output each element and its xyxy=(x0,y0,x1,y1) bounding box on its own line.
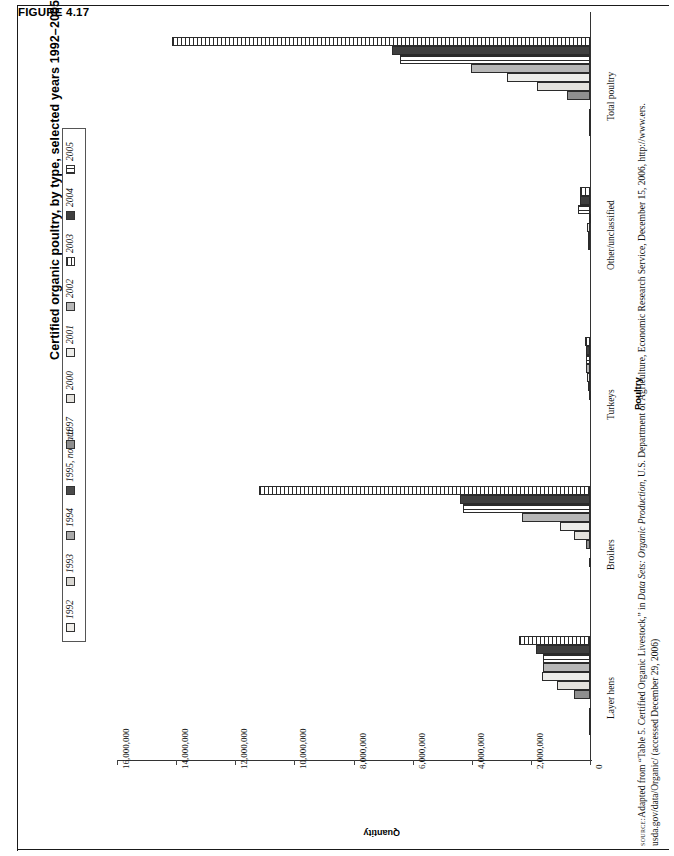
bar xyxy=(586,540,590,549)
bar xyxy=(586,364,590,373)
y-axis-tick-label: 6,000,000 xyxy=(417,733,427,769)
figure-page: FIGURE 4.17 Certified organic poultry, b… xyxy=(0,0,674,856)
source-text-b: , U.S. Department of Agriculture, Econom… xyxy=(637,103,647,482)
y-axis-tick-label: 8,000,000 xyxy=(358,733,368,769)
bar xyxy=(557,681,590,690)
bar xyxy=(589,391,591,400)
bar xyxy=(172,37,590,46)
y-axis-tick-label: 4,000,000 xyxy=(476,733,486,769)
y-axis-tick-label: 16,000,000 xyxy=(121,729,131,770)
bar xyxy=(574,531,590,540)
bar xyxy=(543,654,590,663)
bar xyxy=(522,513,590,522)
source-note-line1: source:Adapted from “Table 5. Certified … xyxy=(637,103,647,846)
y-axis-tick xyxy=(590,760,591,765)
y-axis-tick-label: 14,000,000 xyxy=(180,729,190,770)
bar xyxy=(587,223,590,232)
bar xyxy=(471,64,590,73)
y-axis-tick xyxy=(413,760,414,765)
source-text-italic: Data Sets: Organic Production xyxy=(637,482,647,600)
x-axis-category-label: Turkeys xyxy=(606,389,616,420)
bar xyxy=(519,636,590,645)
source-label: source: xyxy=(637,818,647,846)
bar xyxy=(589,708,591,717)
y-axis-tick-label: 12,000,000 xyxy=(239,729,249,770)
chart-plot-area: 16,000,00014,000,00012,000,00010,000,000… xyxy=(0,0,674,856)
bar xyxy=(589,127,591,136)
bar xyxy=(400,55,590,64)
bar xyxy=(392,46,590,55)
y-axis-tick xyxy=(294,760,295,765)
bar xyxy=(589,558,591,567)
bar xyxy=(589,726,591,735)
bar xyxy=(589,214,591,223)
y-axis-tick xyxy=(117,760,118,765)
bar xyxy=(460,495,590,504)
source-text-a: Adapted from “Table 5. Certified Organic… xyxy=(637,600,647,818)
bar xyxy=(567,91,590,100)
y-axis-tick-label: 0 xyxy=(594,765,604,770)
bar xyxy=(259,486,590,495)
bar xyxy=(578,205,590,214)
bar xyxy=(463,504,590,513)
y-axis-tick xyxy=(354,760,355,765)
bar xyxy=(537,82,590,91)
y-axis-tick xyxy=(472,760,473,765)
x-axis-category-label: Broilers xyxy=(606,539,616,570)
bar xyxy=(574,690,590,699)
bar xyxy=(589,118,591,127)
bar xyxy=(588,232,590,241)
bar xyxy=(560,522,590,531)
bar xyxy=(507,73,590,82)
bar xyxy=(580,187,590,196)
bar xyxy=(543,663,590,672)
source-note-line2: usda.gov/data/Organic/ (accessed Decembe… xyxy=(650,639,660,846)
bar xyxy=(586,355,590,364)
bar xyxy=(589,109,591,118)
bar xyxy=(542,672,590,681)
y-axis-title: Quantity xyxy=(363,828,400,838)
bar xyxy=(589,717,591,726)
y-axis-tick xyxy=(531,760,532,765)
bar xyxy=(536,645,590,654)
y-axis-tick-label: 2,000,000 xyxy=(535,733,545,769)
bar xyxy=(588,241,590,250)
x-axis-category-label: Layer hens xyxy=(606,677,616,719)
y-axis-tick-label: 10,000,000 xyxy=(298,729,308,770)
x-axis-category-label: Other/unclassified xyxy=(606,201,616,271)
bar xyxy=(588,382,590,391)
bar xyxy=(587,373,590,382)
bar xyxy=(586,346,590,355)
bar xyxy=(585,337,590,346)
y-axis-tick xyxy=(235,760,236,765)
y-axis-tick xyxy=(176,760,177,765)
x-axis-category-label: Total poultry xyxy=(606,72,616,121)
bar xyxy=(580,196,590,205)
